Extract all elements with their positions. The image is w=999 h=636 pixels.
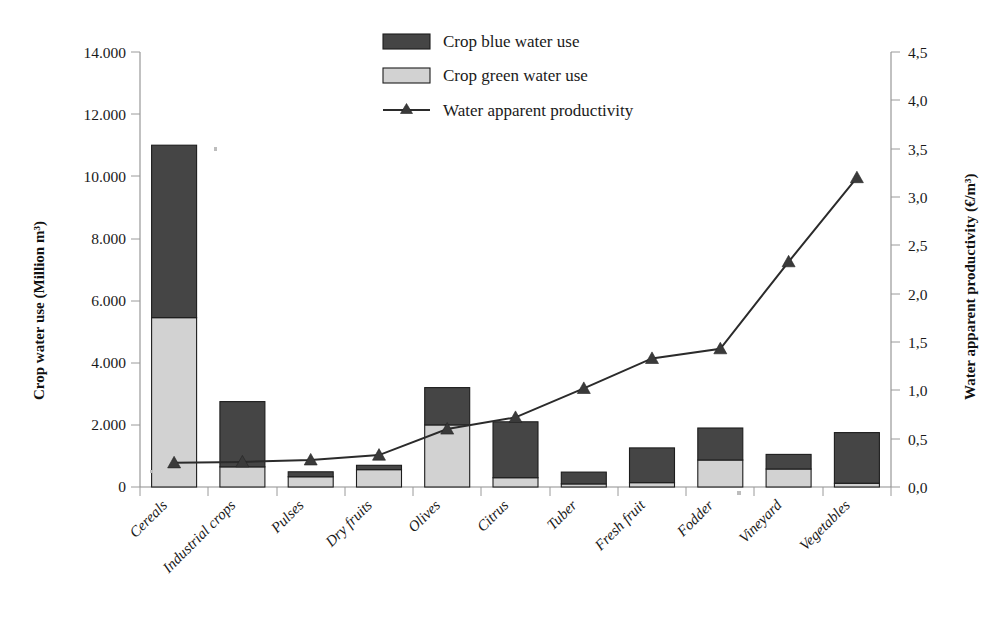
bar-group [220,402,265,487]
productivity-marker-triangle-icon [509,411,522,423]
right-tick-label: 4,0 [908,92,928,109]
bar-group [766,454,811,487]
right-axis [891,52,900,487]
bar-group [561,472,606,487]
right-tick-label: 3,5 [908,141,928,158]
legend-label-blue-water: Crop blue water use [443,32,579,51]
bar-group [834,433,879,487]
category-label: Dry fruits [322,497,376,551]
legend-label-green-water: Crop green water use [443,66,588,85]
bar-segment-blue-water [425,388,470,425]
right-tick-label: 4,5 [908,44,928,61]
chart-figure: 14.000 12.000 10.000 8.000 6.000 4.000 2… [0,0,999,636]
bar-segment-blue-water [288,472,333,477]
category-label: Pulses [267,497,307,537]
category-label: Tuber [544,497,580,533]
right-tick-label: 1,0 [908,382,928,399]
bar-group [288,472,333,487]
left-axis-ticklabels: 14.000 12.000 10.000 8.000 6.000 4.000 2… [83,44,126,495]
bar-segment-blue-water [357,465,402,469]
bar-group [152,145,197,487]
right-tick-label: 0,0 [908,479,928,496]
x-axis [140,487,891,496]
category-label: Cereals [126,497,170,541]
left-tick-label: 6.000 [91,292,126,309]
bar-segment-blue-water [766,454,811,469]
category-label: Fresh fruit [591,496,649,554]
category-label: Olives [405,497,444,536]
left-tick-label: 10.000 [83,168,126,185]
right-tick-label: 0,5 [908,431,928,448]
bar-segment-green-water [698,460,743,487]
left-tick-label: 14.000 [83,44,126,61]
bar-group [493,422,538,487]
right-tick-label: 2,5 [908,237,928,254]
left-tick-label: 0 [118,478,126,495]
bar-segment-green-water [493,478,538,487]
left-tick-label: 8.000 [91,230,126,247]
legend-swatch-green-water [383,68,430,83]
category-label: Vineyard [736,496,785,545]
bar-segment-green-water [357,470,402,487]
bars-layer [152,145,880,487]
bar-segment-green-water [630,483,675,487]
productivity-marker-triangle-icon [850,171,863,183]
left-axis-title: Crop water use (Million m³) [31,221,48,400]
left-axis [131,52,140,487]
left-tick-label: 4.000 [91,354,126,371]
category-label: Fodder [673,497,716,540]
category-label: Citrus [474,497,512,535]
left-tick-label: 12.000 [83,106,126,123]
right-axis-title: Water apparent productivity (€/m³) [962,173,979,400]
category-label: Industrial crops [159,497,239,577]
legend-triangle-marker-icon [401,104,413,114]
legend-swatch-blue-water [383,34,430,49]
bar-segment-green-water [766,469,811,487]
bar-segment-green-water [288,477,333,487]
chart-legend: Crop blue water use Crop green water use… [383,32,634,120]
right-tick-label: 1,5 [908,334,928,351]
productivity-marker-triangle-icon [577,382,590,394]
bar-segment-green-water [834,483,879,487]
bar-segment-green-water [220,467,265,487]
bar-segment-blue-water [834,433,879,484]
bar-group [630,448,675,487]
bar-segment-blue-water [493,422,538,478]
right-axis-ticklabels: 4,5 4,0 3,5 3,0 2,5 2,0 1,5 1,0 0,5 0,0 [908,44,928,496]
bar-segment-blue-water [561,472,606,484]
bar-segment-blue-water [630,448,675,483]
category-labels: CerealsIndustrial cropsPulsesDry fruitsO… [126,496,853,576]
left-tick-label: 2.000 [91,416,126,433]
category-label: Vegetables [796,497,853,554]
legend-label-productivity: Water apparent productivity [443,101,634,120]
right-tick-label: 3,0 [908,189,928,206]
bar-group [357,465,402,487]
bar-group [425,388,470,487]
right-tick-label: 2,0 [908,286,928,303]
bar-segment-blue-water [698,428,743,460]
bar-group [698,428,743,487]
bar-segment-blue-water [152,145,197,317]
chart-svg: 14.000 12.000 10.000 8.000 6.000 4.000 2… [0,0,999,636]
